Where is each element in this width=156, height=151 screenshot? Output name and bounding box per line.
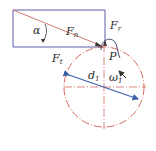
tangential-force-label: Ft xyxy=(51,52,63,66)
angle-arrow-icon xyxy=(41,39,45,43)
normal-force-label: Fn xyxy=(65,25,79,39)
pitch-diameter-label: d1 xyxy=(88,69,100,83)
gear-force-diagram: Fn Fr Ft α P d1 ω1 xyxy=(0,0,156,151)
radial-force-label: Fr xyxy=(109,19,122,33)
pressure-angle-label: α xyxy=(33,24,41,37)
pitch-point-label: P xyxy=(108,50,117,63)
normal-force-line xyxy=(13,10,102,46)
